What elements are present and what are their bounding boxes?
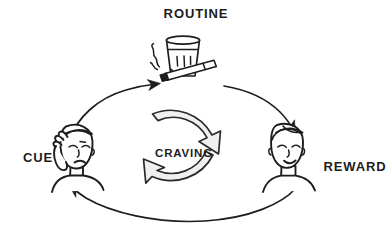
stressed-face-icon: [52, 125, 104, 192]
content-face-icon: [263, 124, 315, 192]
label-craving: CRAVING: [155, 147, 213, 159]
smoke-icon: [151, 44, 160, 70]
habit-loop-diagram: ROUTINE CUE REWARD CRAVING: [0, 0, 391, 243]
label-routine: ROUTINE: [164, 6, 229, 21]
label-cue: CUE: [23, 150, 53, 165]
label-reward: REWARD: [323, 159, 386, 174]
habit-loop-illustration: ROUTINE CUE REWARD CRAVING: [0, 0, 391, 243]
glass-and-cigarette-icon: [151, 36, 217, 81]
